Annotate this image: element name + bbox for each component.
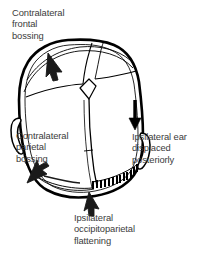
label-line: occipitoparietal — [74, 223, 135, 234]
coronal-suture-right — [95, 71, 136, 79]
coronal-suture-left — [26, 84, 83, 97]
label-line: parietal — [16, 141, 68, 152]
label-ipsilateral-occipitoparietal-flattening: Ipsilateral occipitoparietal flattening — [74, 212, 135, 246]
anterior-fontanelle — [80, 79, 96, 99]
metopic-suture — [83, 43, 92, 84]
arrow-frontal-bossing — [46, 53, 62, 81]
label-contralateral-frontal-bossing: Contralateral frontal bossing — [12, 7, 64, 41]
label-line: displaced — [132, 142, 187, 153]
label-line: bossing — [12, 30, 64, 41]
label-line: Contralateral — [12, 7, 64, 18]
arrow-ear-displaced — [129, 100, 141, 130]
label-line: Ipsilateral — [74, 212, 135, 223]
label-line: Contralateral — [16, 130, 68, 141]
label-line: bossing — [16, 153, 68, 164]
label-line: frontal — [12, 18, 64, 29]
label-line: posteriorly — [132, 154, 187, 165]
label-line: Ipsilateral ear — [132, 131, 187, 142]
label-ipsilateral-ear-displaced: Ipsilateral ear displaced posteriorly — [132, 131, 187, 165]
label-line: flattening — [74, 235, 135, 246]
plagiocephaly-diagram: Contralateral frontal bossing Contralate… — [0, 0, 202, 253]
label-contralateral-parietal-bossing: Contralateral parietal bossing — [16, 130, 68, 164]
sagittal-suture — [89, 99, 97, 186]
